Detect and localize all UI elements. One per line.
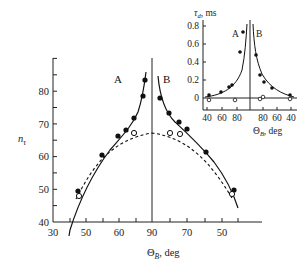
inset-y-tick-0: 0	[194, 93, 199, 103]
y-tick-60: 60	[39, 151, 50, 162]
chart-canvas: 40 50 60 70 80 30 50 60 90 70 50 ΘB, deg…	[0, 0, 299, 274]
inset-branch-a-label: A	[232, 29, 239, 39]
inset-branch-b-label: B	[256, 29, 262, 39]
x-tick-90: 90	[147, 227, 158, 238]
main-axes	[53, 58, 262, 222]
inset-y-tick-0.2: 0.2	[187, 75, 199, 85]
inset-y-tick-0.6: 0.6	[187, 39, 199, 49]
branch-a-label: A	[114, 73, 122, 85]
main-filled-points	[75, 77, 236, 193]
main-y-axis-title: nτ	[18, 133, 26, 147]
inset-y-tick-0.4: 0.4	[187, 57, 199, 67]
inset-y-tick-0.8: 0.8	[187, 21, 199, 31]
inset-y-tick-labels: 0 0.2 0.4 0.6 0.8	[187, 21, 199, 103]
inset-x-axis-title: ΘB, deg	[253, 126, 283, 137]
inset-x-tick-60-right: 60	[272, 113, 282, 123]
x-tick-70: 70	[182, 227, 193, 238]
inset-y-axis-title: τd, ms	[194, 8, 217, 19]
inset-fit-a	[205, 24, 247, 97]
inset-x-tick-40-right: 40	[286, 113, 296, 123]
branch-b-label: B	[163, 73, 170, 85]
y-tick-80: 80	[39, 86, 50, 97]
x-tick-60: 60	[114, 227, 125, 238]
main-x-tick-labels: 30 50 60 90 70 50	[48, 227, 228, 238]
inset-x-tick-60: 60	[217, 113, 227, 123]
inset-x-tick-labels: 40 60 80 80 60 40	[202, 113, 296, 123]
main-x-axis-title: ΘB, deg	[147, 247, 180, 261]
main-y-tick-labels: 40 50 60 70 80	[39, 86, 50, 228]
x-tick-50-right: 50	[217, 227, 228, 238]
inset-x-tick-40: 40	[202, 113, 212, 123]
y-tick-70: 70	[39, 119, 50, 130]
inset-x-tick-80: 80	[232, 113, 242, 123]
x-tick-50: 50	[81, 227, 92, 238]
x-tick-30: 30	[48, 227, 59, 238]
inset-axes	[203, 20, 297, 110]
inset-x-tick-80-right: 80	[258, 113, 268, 123]
y-tick-50: 50	[39, 184, 50, 195]
